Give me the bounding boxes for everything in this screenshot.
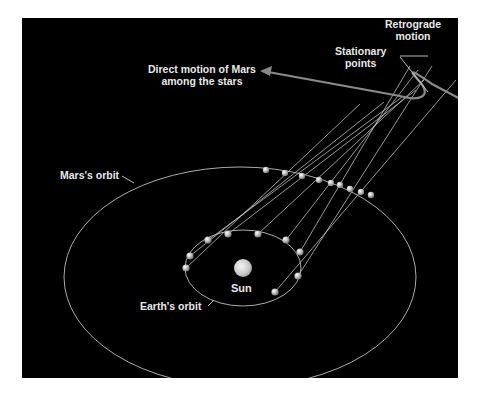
mars-position-dot [368,192,374,198]
stationary-label-line1: Stationary [335,45,386,57]
mars-position-dot [299,173,305,179]
sight-line [258,80,424,234]
retrograde-motion-diagram [0,0,480,398]
earth-position-dot [254,230,261,237]
mars-position-dot [358,189,364,195]
mars-position-dot [328,180,334,186]
mars-position-dot [347,186,353,192]
direct-motion-label: Direct motion of Mars among the stars [148,63,256,87]
stationary-label-line2: points [335,57,386,69]
earth-position-dot [296,248,303,255]
retrograde-label-line2: motion [385,30,441,42]
sight-line [275,80,456,292]
direct-motion-line1: Direct motion of Mars [148,63,256,75]
mars-orbit-leader [122,176,134,183]
earth-orbit-label: Earth's orbit [140,300,201,312]
stationary-leader-2 [400,57,428,92]
earth-orbit-leader [208,300,214,306]
earth-position-dot [182,264,189,271]
sun-label: Sun [231,282,252,294]
mars-orbit-label: Mars's orbit [60,169,119,181]
mars-position-dot [263,167,269,173]
sight-line [208,97,402,240]
earth-position-dot [186,252,193,259]
earth-position-dot [204,236,211,243]
sight-line [186,104,360,268]
earth-position-dot [294,272,301,279]
mars-position-dot [316,177,322,183]
sight-line [228,90,416,234]
mars-orbit [64,167,416,387]
retrograde-label-line1: Retrograde [385,18,441,30]
mars-position-dot [282,170,288,176]
direct-motion-arrowhead [260,66,272,76]
stationary-points-label: Stationary points [335,45,386,69]
mars-position-dot [337,182,343,188]
earth-position-dot [282,236,289,243]
sun-icon [234,259,252,277]
earth-position-dot [224,230,231,237]
earth-position-dot [271,288,278,295]
retrograde-motion-label: Retrograde motion [385,18,441,42]
direct-motion-line2: among the stars [148,75,256,87]
